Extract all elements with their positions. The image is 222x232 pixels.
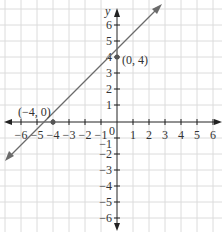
point-y-intercept: [115, 55, 120, 60]
svg-text:−6: −6: [99, 211, 112, 225]
svg-text:1: 1: [106, 98, 112, 112]
y-axis-label: y: [104, 4, 111, 18]
svg-text:4: 4: [178, 128, 184, 142]
svg-text:6: 6: [106, 18, 112, 32]
coordinate-plane: −6 −5 −4 −3 −2 −1 1 2 3 4 5 6 6 5 4 3 2 …: [0, 0, 222, 232]
svg-text:5: 5: [106, 34, 112, 48]
axes: [8, 14, 218, 226]
svg-text:3: 3: [162, 128, 168, 142]
svg-text:−5: −5: [31, 128, 44, 142]
point-y-intercept-label: (0, 4): [122, 53, 148, 67]
svg-text:−4: −4: [99, 179, 112, 193]
svg-text:5: 5: [194, 128, 200, 142]
svg-text:−3: −3: [63, 128, 76, 142]
svg-text:−3: −3: [99, 163, 112, 177]
svg-text:1: 1: [130, 128, 136, 142]
point-x-intercept: [51, 120, 56, 125]
y-axis-down-arrow-icon: [114, 223, 120, 231]
x-axis-right-arrow-icon: [214, 119, 222, 125]
x-tick-labels: −6 −5 −4 −3 −2 −1 1 2 3 4 5 6: [15, 128, 216, 142]
svg-text:−5: −5: [99, 195, 112, 209]
svg-text:−4: −4: [47, 128, 60, 142]
svg-text:6: 6: [210, 128, 216, 142]
svg-text:3: 3: [106, 66, 112, 80]
svg-text:−2: −2: [79, 128, 92, 142]
svg-text:2: 2: [146, 128, 152, 142]
svg-text:−2: −2: [99, 147, 112, 161]
svg-text:2: 2: [106, 82, 112, 96]
point-x-intercept-label: (−4, 0): [18, 105, 51, 119]
origin-label: 0: [109, 124, 115, 138]
